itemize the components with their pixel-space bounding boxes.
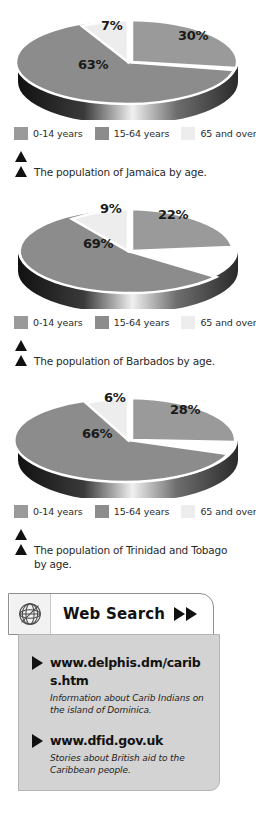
legend-swatch-65-over [181, 505, 195, 518]
result-description: Stories about British aid to the Caribbe… [50, 752, 209, 776]
legend-label-15-64: 15-64 years [114, 128, 170, 139]
chart-block-barbados: 22% 69% 9% 0-14 years 15-64 years 65 and… [0, 189, 256, 368]
chart-block-trinidad-tobago: 28% 66% 6% 0-14 years 15-64 years 65 and… [0, 378, 256, 571]
pie-value-0-14: 28% [170, 402, 200, 417]
web-search-results: www.delphis.dm/caribs.htm Information ab… [18, 634, 220, 791]
legend-trinidad-tobago: 0-14 years 15-64 years 65 and over [14, 505, 246, 518]
legend-item-0-14: 0-14 years [14, 127, 83, 140]
pie-value-15-64: 66% [82, 426, 112, 441]
result-url[interactable]: www.dfid.gov.uk [50, 733, 163, 748]
triangle-marker-icon [15, 529, 27, 540]
triangle-bullet-icon [15, 166, 27, 177]
caption-text-jamaica: The population of Jamaica by age. [34, 165, 207, 179]
legend-item-0-14: 0-14 years [14, 505, 83, 518]
globe-icon-svg [15, 599, 45, 629]
legend-item-15-64: 15-64 years [95, 316, 170, 329]
right-arrow-icon-1 [174, 607, 185, 621]
legend-swatch-65-over [181, 127, 195, 140]
list-item[interactable]: www.dfid.gov.uk Stories about British ai… [29, 731, 209, 776]
pie-chart-barbados-svg [10, 189, 246, 309]
legend-item-15-64: 15-64 years [95, 505, 170, 518]
legend-item-65-over: 65 and over [181, 505, 256, 518]
legend-barbados: 0-14 years 15-64 years 65 and over [14, 316, 246, 329]
pie-value-15-64: 69% [83, 236, 113, 251]
legend-label-65-over: 65 and over [200, 128, 256, 139]
legend-label-15-64: 15-64 years [114, 506, 170, 517]
legend-jamaica: 0-14 years 15-64 years 65 and over [14, 127, 246, 140]
pie-chart-jamaica: 30% 63% 7% [10, 0, 246, 120]
legend-item-0-14: 0-14 years [14, 316, 83, 329]
legend-swatch-15-64 [95, 505, 109, 518]
web-search-title: Web Search [63, 605, 165, 623]
legend-swatch-0-14 [14, 127, 28, 140]
legend-label-0-14: 0-14 years [33, 128, 83, 139]
pie-chart-barbados: 22% 69% 9% [10, 189, 246, 309]
pie-value-65-over: 9% [100, 201, 121, 216]
triangle-bullet-icon [15, 544, 27, 555]
caption-barbados: The population of Barbados by age. [14, 340, 242, 368]
legend-label-0-14: 0-14 years [33, 506, 83, 517]
bullet-arrow-icon [32, 734, 43, 748]
triangle-bullet-icon [15, 355, 27, 366]
legend-label-65-over: 65 and over [200, 506, 256, 517]
legend-swatch-65-over [181, 316, 195, 329]
legend-swatch-15-64 [95, 316, 109, 329]
chart-block-jamaica: 30% 63% 7% 0-14 years 15-64 years 65 and… [0, 0, 256, 179]
web-search-header: Web Search [8, 593, 214, 635]
pie-chart-trinidad-tobago-svg [10, 378, 246, 498]
triangle-marker-icon [15, 151, 27, 162]
legend-label-65-over: 65 and over [200, 317, 256, 328]
legend-label-15-64: 15-64 years [114, 317, 170, 328]
pie-value-15-64: 63% [78, 57, 108, 72]
legend-swatch-0-14 [14, 316, 28, 329]
bullet-arrow-icon [32, 656, 43, 670]
caption-jamaica: The population of Jamaica by age. [14, 151, 242, 179]
caption-text-barbados: The population of Barbados by age. [34, 354, 215, 368]
globe-icon [10, 594, 51, 634]
result-url[interactable]: www.delphis.dm/caribs.htm [50, 655, 200, 688]
pie-value-65-over: 7% [101, 18, 122, 33]
legend-swatch-15-64 [95, 127, 109, 140]
result-description: Information about Carib Indians on the i… [50, 692, 209, 716]
right-arrow-icon-2 [186, 607, 197, 621]
legend-item-15-64: 15-64 years [95, 127, 170, 140]
pie-value-65-over: 6% [104, 390, 125, 405]
legend-item-65-over: 65 and over [181, 316, 256, 329]
list-item[interactable]: www.delphis.dm/caribs.htm Information ab… [29, 653, 209, 716]
pie-value-0-14: 30% [178, 28, 208, 43]
triangle-marker-icon [15, 340, 27, 351]
pie-chart-jamaica-svg [10, 0, 246, 120]
legend-swatch-0-14 [14, 505, 28, 518]
web-search-panel: Web Search www.delphis.dm/caribs.htm Inf… [8, 593, 220, 791]
double-right-arrow-icon[interactable] [174, 607, 197, 621]
legend-label-0-14: 0-14 years [33, 317, 83, 328]
pie-chart-trinidad-tobago: 28% 66% 6% [10, 378, 246, 498]
legend-item-65-over: 65 and over [181, 127, 256, 140]
page-root: 30% 63% 7% 0-14 years 15-64 years 65 and… [0, 0, 256, 828]
pie-value-0-14: 22% [158, 207, 188, 222]
caption-trinidad-tobago: The population of Trinidad and Tobago by… [14, 529, 242, 571]
caption-text-trinidad-tobago: The population of Trinidad and Tobago by… [34, 543, 242, 571]
